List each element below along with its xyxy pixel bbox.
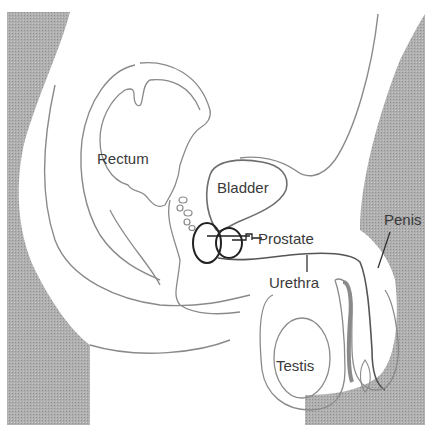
scrotum-outline xyxy=(260,280,345,410)
label-rectum: Rectum xyxy=(97,151,149,166)
rectum-inner-fold xyxy=(110,210,160,285)
label-bladder: Bladder xyxy=(217,180,269,195)
anatomy-illustration xyxy=(0,0,431,431)
buttock-fold xyxy=(90,340,230,353)
prostate xyxy=(193,223,242,263)
label-testis: Testis xyxy=(276,358,314,373)
perineum-outline xyxy=(169,200,240,314)
abdomen-outline xyxy=(240,14,378,176)
label-prostate: Prostate xyxy=(258,231,314,246)
anatomy-diagram: Rectum Bladder Prostate Urethra Penis Te… xyxy=(0,0,431,431)
seminal-vesicles xyxy=(177,197,195,231)
label-penis: Penis xyxy=(384,212,422,227)
rectum-wall xyxy=(100,63,210,207)
rectum-outer xyxy=(81,65,160,280)
label-urethra: Urethra xyxy=(269,275,319,290)
prostate-pointer xyxy=(207,234,262,240)
